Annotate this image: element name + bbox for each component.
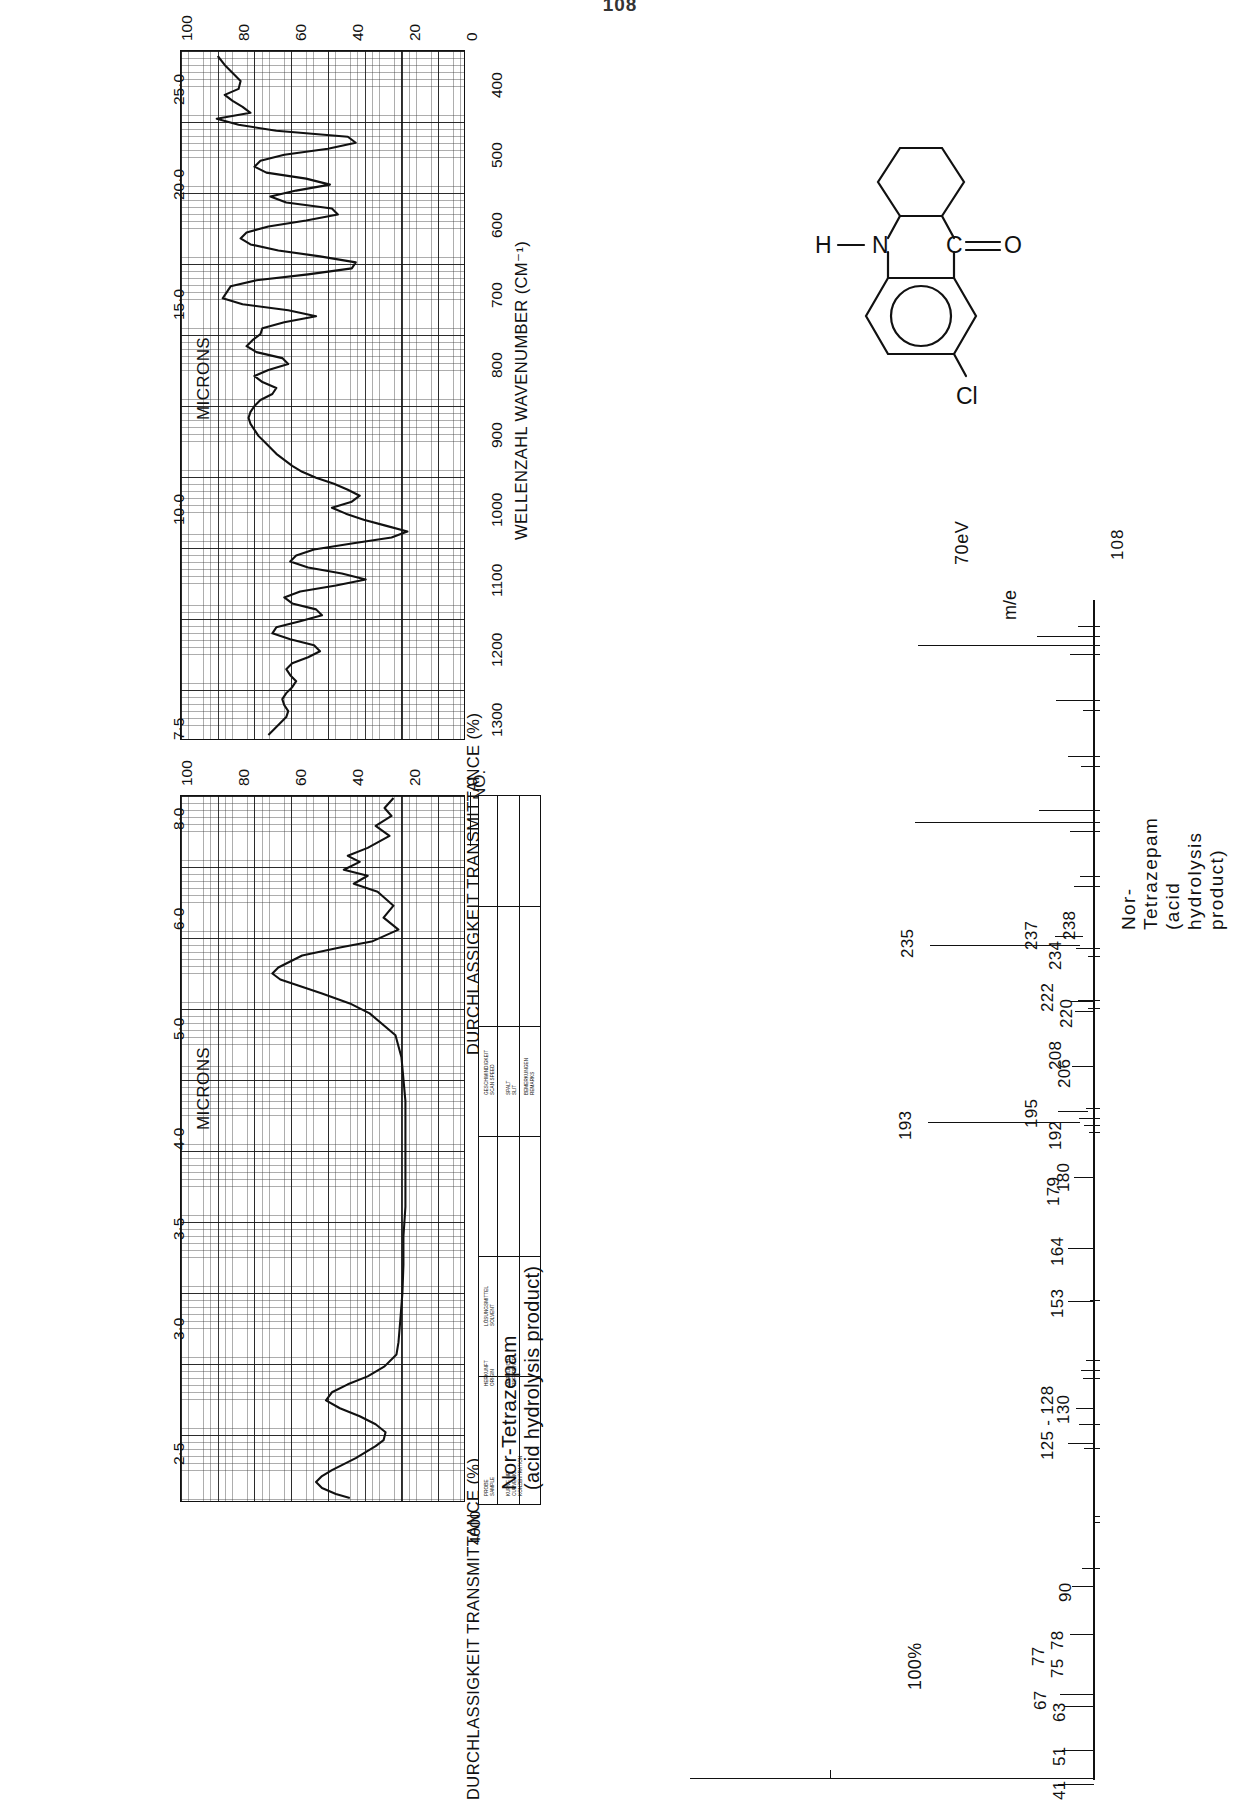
ms-peak-128 [1079,1118,1100,1119]
ir-low-microns-4: 4·0 [170,1128,188,1150]
info-label-remarks: REMARKS [530,1072,536,1095]
ms-peak-235 [918,645,1100,646]
info-sample-value: Nor-Tetrazepam [497,1335,521,1490]
ms-leader-130 [1076,1408,1094,1409]
chemical-structure-diagram: H N C O Cl [760,120,1060,440]
info-label-sample: SAMPLE [490,1477,496,1496]
no-value-rule[interactable] [470,792,471,846]
info-label-solvent: SOLVENT [490,1304,496,1326]
ir-low-microns-6: 6·0 [170,908,188,930]
ms-label-222: 222 [1038,983,1058,1012]
ir-low-microns-35: 3·5 [170,1218,188,1240]
ms-peak-193 [915,822,1100,823]
ms-peak-77 [1081,1370,1100,1371]
ir-high-microns-75: 7·5 [170,718,188,740]
ms-peak-67 [1079,1424,1100,1425]
ms-label-179: 179 [1044,1177,1064,1206]
ms-peak-180 [1080,876,1100,877]
ir-low-microns-axis-title: MICRONS [194,1047,214,1130]
ms-baseline-tick [830,1770,831,1779]
ir-high-wn-700: 700 [488,282,506,308]
structure-atom-h: H [815,232,832,258]
ir-trace-low [181,51,464,739]
page-number: 108 [560,0,680,16]
ir-high-ytick-20: 20 [406,24,424,41]
ir-low-microns-8: 8·0 [170,808,188,830]
ms-peak-222 [1056,700,1100,701]
ir-low-ytick-20: 20 [406,769,424,786]
ir-chart-high-wavenumber [180,795,465,1502]
ms-leader-193 [928,1122,1080,1123]
ir-low-ytick-40: 40 [349,769,367,786]
ms-peak-125 [1089,1132,1100,1133]
ir-high-wn-900: 900 [488,422,506,448]
ir-high-wn-400: 400 [488,72,506,98]
ir-high-wavenumber-axis-title: WELLENZAHL WAVENUMBER (CM⁻¹) [512,241,531,540]
structure-atom-o: O [1004,232,1022,258]
ir-trace-high [181,796,464,1501]
ms-label-77: 77 [1029,1646,1049,1666]
ms-leader-67 [1060,1694,1094,1695]
ms-peak-51 [1093,1516,1100,1517]
ms-leader-78 [1070,1634,1094,1635]
ms-peak-41 [1082,1568,1100,1569]
ms-peak-164 [1076,948,1100,949]
ms-leader-222 [1070,1001,1095,1002]
ms-label-164: 164 [1048,1237,1068,1266]
ir-low-microns-5: 5·0 [170,1018,188,1040]
ms-label-193: 193 [896,1111,916,1140]
info-box-row-rule-2 [479,1026,540,1027]
ms-peak-192 [1070,831,1100,832]
ir-low-microns-3: 3·0 [170,1318,188,1340]
info-box-row-rule-3 [479,1136,540,1137]
ir-high-microns-10: 10·0 [170,494,188,525]
ms-peak-237 [1037,636,1100,637]
ms-peak-164b [1088,956,1100,957]
ms-label-220: 220 [1057,999,1077,1028]
ir-low-ytick-100: 100 [178,760,196,786]
ir-high-ytick-40: 40 [349,24,367,41]
ms-ionization-energy-label: 70eV [952,521,973,565]
ms-peak-208 [1068,756,1100,757]
ir-high-microns-axis-title: MICRONS [194,337,214,420]
ir-low-microns-25: 2·5 [170,1443,188,1465]
ir-low-ytick-60: 60 [292,769,310,786]
ms-peak-195 [1039,810,1100,811]
ms-peak-75 [1083,1378,1100,1379]
ms-leader-206 [1072,1066,1094,1067]
ms-peak-220 [1083,710,1100,711]
ms-compound-title: Nor-Tetrazepam (acid hydrolysis product) [1118,801,1228,930]
ms-leader-237 [1055,936,1083,937]
info-label-origin: ORIGIN [490,1369,496,1386]
ms-label-125-128: 125 - 128 [1038,1385,1058,1460]
ir-high-wn-600: 600 [488,212,506,238]
ms-label-78: 78 [1048,1630,1068,1650]
ms-label-235: 235 [898,929,918,958]
ms-mz-baseline [690,1778,1095,1779]
ms-leader-180 [1074,1177,1094,1178]
ms-label-195: 195 [1022,1099,1042,1128]
info-label-scan-speed: SCAN SPEED [490,1064,496,1095]
ms-leader-125 [1068,1443,1093,1444]
ir-chart-low-wavenumber [180,50,465,740]
ms-leader-220 [1075,1011,1093,1012]
info-sample-value-2: (acid hydrolysis product) [521,1266,544,1490]
ir-high-ytick-80: 80 [235,24,253,41]
structure-atom-c: C [946,232,963,258]
ms-peak-63 [1084,1448,1100,1449]
ms-peak-78 [1086,1360,1100,1361]
ms-leader-235 [930,945,1080,946]
ir-high-wn-500: 500 [488,142,506,168]
ms-leader-41 [1058,1784,1094,1785]
ir-high-microns-15: 15·0 [170,289,188,320]
ms-leader-90 [1072,1586,1094,1587]
ms-leader-63 [1064,1706,1094,1707]
info-label-slit: SLIT [512,1085,518,1095]
structure-atom-cl: Cl [956,383,978,409]
ir-high-wn-1000: 1000 [488,493,506,527]
info-box-row-rule-1 [479,906,540,907]
ms-peak-206 [1081,766,1100,767]
ir-high-microns-20: 20·0 [170,169,188,200]
ir-high-wn-1300: 1300 [488,703,506,737]
structure-atom-n: N [872,232,889,258]
